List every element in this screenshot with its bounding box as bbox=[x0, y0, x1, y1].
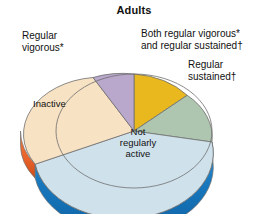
label-not-regularly-active: Not regularly active bbox=[107, 126, 169, 159]
label-both-regular-vigorous-and-sustained: Both regular vigorous* and regular susta… bbox=[141, 28, 243, 51]
label-sustained-line2: sustained† bbox=[188, 71, 236, 83]
label-notreg-line2: regularly bbox=[107, 137, 169, 148]
label-inactive-line1: Inactive bbox=[33, 98, 66, 109]
label-both-line2: and regular sustained† bbox=[141, 40, 243, 52]
label-notreg-line3: active bbox=[107, 148, 169, 159]
label-regular-sustained: Regular sustained† bbox=[188, 59, 236, 82]
label-sustained-line1: Regular bbox=[188, 59, 236, 71]
pie-chart-figure: Adults bbox=[0, 0, 268, 214]
label-both-line1: Both regular vigorous* bbox=[141, 28, 243, 40]
label-vigorous-line2: vigorous* bbox=[22, 42, 64, 54]
label-inactive: Inactive bbox=[33, 98, 66, 109]
label-regular-vigorous: Regular vigorous* bbox=[22, 30, 64, 53]
label-vigorous-line1: Regular bbox=[22, 30, 64, 42]
label-notreg-line1: Not bbox=[107, 126, 169, 137]
